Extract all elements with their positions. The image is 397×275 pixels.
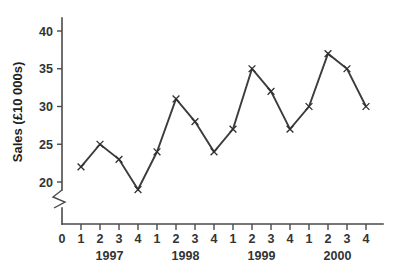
line-chart-figure: 2025303540 01234123412341234 19971998199… xyxy=(0,0,397,275)
x-tick-label: 1 xyxy=(306,232,313,246)
x-tick-label: 1 xyxy=(154,232,161,246)
x-tick-label: 4 xyxy=(363,232,370,246)
y-tick-label: 30 xyxy=(39,100,53,114)
x-tick-label: 4 xyxy=(135,232,142,246)
axes-group xyxy=(53,18,383,224)
y-tick-label: 25 xyxy=(39,138,53,152)
x-tick-label: 0 xyxy=(59,232,66,246)
sales-line xyxy=(81,54,366,190)
data-point-marker xyxy=(211,148,218,155)
data-point-marker xyxy=(135,186,142,193)
y-axis-tick-labels: 2025303540 xyxy=(39,25,53,190)
x-axis-group-label: 2000 xyxy=(324,249,352,263)
y-tick-label: 20 xyxy=(39,176,53,190)
x-tick-label: 2 xyxy=(249,232,256,246)
x-tick-label: 2 xyxy=(97,232,104,246)
chart-canvas: 2025303540 01234123412341234 19971998199… xyxy=(0,0,397,275)
x-axis-tick-labels: 01234123412341234 xyxy=(59,232,370,246)
x-axis-ticks xyxy=(81,224,366,230)
data-point-marker xyxy=(78,164,85,171)
y-axis-break-icon xyxy=(53,190,65,208)
y-tick-label: 35 xyxy=(39,62,53,76)
data-point-marker xyxy=(344,65,351,72)
y-tick-label: 40 xyxy=(39,25,53,39)
x-tick-label: 2 xyxy=(325,232,332,246)
data-series-sales xyxy=(81,54,366,190)
x-tick-label: 3 xyxy=(344,232,351,246)
x-axis-group-label: 1998 xyxy=(172,249,200,263)
data-point-marker xyxy=(116,156,123,163)
x-axis-group-labels: 1997199819992000 xyxy=(96,249,352,263)
x-tick-label: 1 xyxy=(230,232,237,246)
x-axis-group-label: 1997 xyxy=(96,249,124,263)
data-point-marker xyxy=(268,88,275,95)
y-axis-title: Sales (£10 000s) xyxy=(10,62,25,162)
data-point-marker xyxy=(192,118,199,125)
data-point-marker xyxy=(287,126,294,133)
x-tick-label: 3 xyxy=(192,232,199,246)
y-axis-title-label: Sales (£10 000s) xyxy=(10,62,25,162)
data-point-marker xyxy=(363,103,370,110)
data-point-marker xyxy=(97,141,104,148)
data-point-markers xyxy=(78,50,370,193)
x-tick-label: 3 xyxy=(268,232,275,246)
x-tick-label: 4 xyxy=(287,232,294,246)
x-axis-group-label: 1999 xyxy=(248,249,276,263)
x-tick-label: 1 xyxy=(78,232,85,246)
x-tick-label: 3 xyxy=(116,232,123,246)
x-tick-label: 4 xyxy=(211,232,218,246)
x-tick-label: 2 xyxy=(173,232,180,246)
